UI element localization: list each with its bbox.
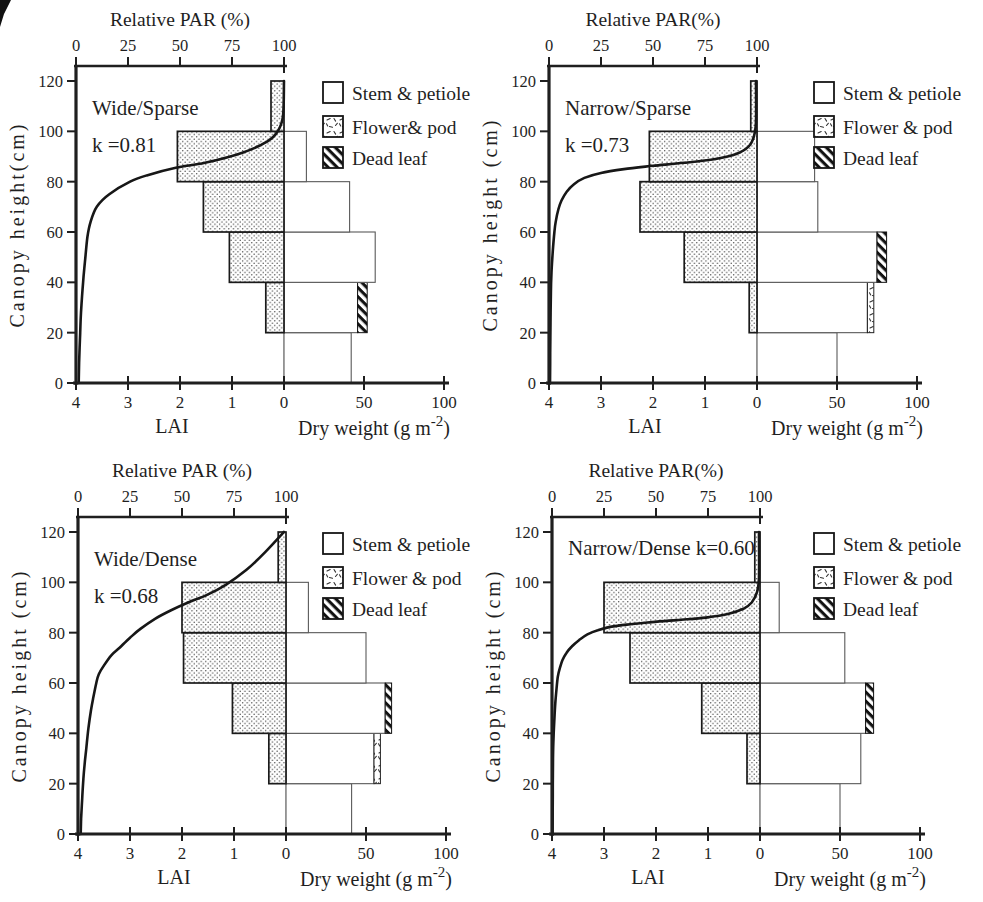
height-tick-label: 40 (520, 273, 537, 292)
stem-petiole-bar (760, 733, 861, 783)
stem-petiole-bar (284, 182, 350, 232)
stem-petiole-bar (284, 232, 375, 282)
lai-tick-label: 3 (124, 393, 133, 412)
legend-swatch-open (814, 533, 834, 554)
stem-petiole-bar (757, 333, 837, 383)
legend-swatch-sparse (323, 116, 343, 137)
lai-tick-label: 0 (756, 844, 765, 863)
lai-tick-label: 3 (597, 393, 606, 412)
lai-tick-label: 1 (704, 844, 713, 863)
dead-leaf-cap (877, 232, 887, 282)
dw-axis-label: Dry weight (g m-2) (300, 864, 452, 891)
legend: Stem & petioleFlower & podDead leaf (323, 533, 470, 620)
stem-petiole-bar (757, 282, 867, 332)
leaf-lai-bar (640, 182, 757, 232)
lai-tick-label: 0 (753, 393, 762, 412)
height-tick-label: 120 (38, 72, 63, 91)
legend-swatch-hatch (323, 598, 343, 619)
leaf-lai-bar (630, 633, 760, 683)
par-axis-title: Relative PAR(%) (585, 9, 720, 31)
leaf-lai-bar (278, 532, 286, 582)
stem-petiole-bar (286, 733, 374, 783)
par-tick-label: 75 (224, 36, 241, 55)
lai-tick-label: 3 (600, 844, 609, 863)
legend-label: Stem & petiole (352, 534, 470, 555)
stem-petiole-bar (760, 784, 840, 834)
legend-swatch-open (323, 82, 343, 103)
legend-swatch-hatch (814, 598, 834, 619)
lai-tick-label: 1 (230, 844, 239, 863)
leaf-lai-bar (269, 733, 286, 783)
lai-tick-label: 2 (176, 393, 185, 412)
height-tick-label: 0 (531, 825, 539, 844)
lai-tick-label: 4 (72, 393, 81, 412)
legend-swatch-sparse (814, 116, 834, 137)
height-tick-label: 80 (49, 624, 66, 643)
leaf-lai-bar (649, 131, 757, 181)
height-tick-label: 60 (47, 223, 64, 242)
flower-pod-cap (867, 282, 873, 332)
par-tick-label: 50 (174, 487, 191, 506)
par-axis-title: Relative PAR (%) (110, 9, 250, 31)
lai-tick-label: 2 (178, 844, 187, 863)
legend-label: Flower & pod (352, 568, 462, 589)
dw-tick-label: 100 (431, 393, 457, 412)
k-value-label: k =0.73 (565, 133, 629, 157)
lai-tick-label: 4 (74, 844, 83, 863)
height-tick-label: 120 (511, 72, 536, 91)
height-tick-label: 60 (523, 674, 540, 693)
par-tick-label: 75 (226, 487, 243, 506)
par-tick-label: 50 (648, 487, 665, 506)
k-value-label: k =0.68 (94, 584, 158, 608)
legend-label: Dead leaf (352, 148, 428, 169)
par-tick-label: 25 (593, 36, 610, 55)
legend-swatch-hatch (323, 147, 343, 168)
leaf-lai-bar (749, 282, 757, 332)
legend-swatch-sparse (323, 567, 343, 588)
height-tick-label: 20 (523, 775, 540, 794)
stem-petiole-bar (284, 282, 358, 332)
par-tick-label: 100 (272, 36, 297, 55)
height-tick-label: 60 (49, 674, 66, 693)
lai-tick-label: 4 (545, 393, 554, 412)
height-tick-label: 60 (520, 223, 537, 242)
height-tick-label: 20 (520, 324, 537, 343)
y-axis-label: Canopy height(cm) (6, 122, 29, 328)
leaf-lai-bar (229, 232, 284, 282)
leaf-lai-bar (702, 683, 760, 733)
legend-swatch-hatch (814, 147, 834, 168)
treatment-label: Wide/Dense (94, 547, 197, 571)
dw-tick-label: 100 (907, 844, 933, 863)
stem-petiole-bar (760, 582, 779, 632)
stem-petiole-bar (760, 683, 866, 733)
figure-canvas: 0255075100Relative PAR (%)12010080604020… (0, 0, 983, 902)
height-tick-label: 80 (47, 173, 64, 192)
lai-axis-label: LAI (631, 866, 664, 888)
legend-label: Flower & pod (843, 568, 953, 589)
stem-petiole-bar (757, 182, 818, 232)
legend-label: Flower& pod (352, 117, 457, 138)
legend-label: Flower & pod (843, 117, 953, 138)
par-tick-label: 100 (748, 487, 773, 506)
leaf-lai-bar (684, 232, 757, 282)
height-tick-label: 20 (47, 324, 64, 343)
dw-tick-label: 100 (904, 393, 930, 412)
stem-petiole-bar (757, 131, 815, 181)
par-tick-label: 50 (645, 36, 662, 55)
par-tick-label: 100 (274, 487, 299, 506)
stem-petiole-bar (286, 633, 366, 683)
legend-label: Dead leaf (352, 599, 428, 620)
lai-tick-label: 1 (228, 393, 237, 412)
dw-tick-label: 50 (356, 393, 373, 412)
leaf-lai-bar (182, 582, 286, 632)
dw-tick-label: 50 (358, 844, 375, 863)
legend: Stem & petioleFlower& podDead leaf (323, 82, 470, 169)
dead-leaf-cap (358, 282, 368, 332)
lai-tick-label: 2 (652, 844, 661, 863)
legend-label: Stem & petiole (843, 83, 961, 104)
stem-petiole-bar (286, 784, 352, 834)
height-tick-label: 100 (38, 122, 63, 141)
par-tick-label: 50 (172, 36, 189, 55)
lai-tick-label: 4 (548, 844, 557, 863)
legend: Stem & petioleFlower & podDead leaf (814, 82, 961, 169)
